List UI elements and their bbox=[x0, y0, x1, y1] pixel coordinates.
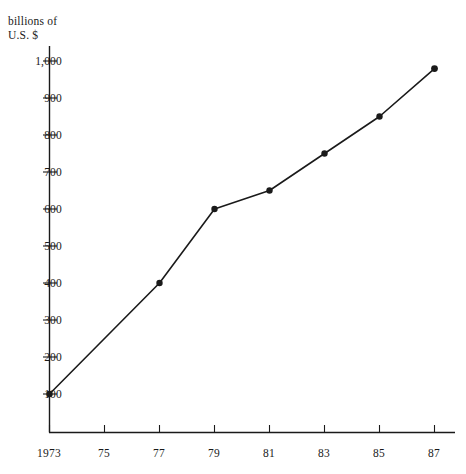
plot-area bbox=[0, 0, 466, 474]
data-point-1987 bbox=[431, 65, 438, 72]
data-point-1973 bbox=[46, 391, 52, 397]
data-point-1983 bbox=[321, 150, 327, 156]
data-point-1977 bbox=[156, 280, 162, 286]
data-point-1979 bbox=[211, 206, 217, 212]
data-point-markers bbox=[46, 65, 438, 397]
data-point-1981 bbox=[266, 187, 272, 193]
data-point-1985 bbox=[376, 113, 382, 119]
line-chart: billions of U.S. $ 1,000 900 800 700 600… bbox=[0, 0, 466, 474]
x-axis-ticks bbox=[50, 425, 435, 432]
